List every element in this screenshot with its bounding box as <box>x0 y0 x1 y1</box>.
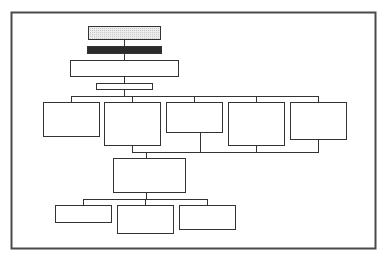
org-chart-diagram <box>0 0 389 262</box>
node-top <box>89 27 161 40</box>
node-i <box>180 206 236 230</box>
node-e <box>291 103 347 140</box>
node-sub <box>97 84 153 90</box>
node-h <box>118 206 174 234</box>
node-c <box>167 103 223 133</box>
node-banner <box>88 47 162 54</box>
node-g <box>56 206 112 223</box>
node-a <box>44 103 100 137</box>
node-main <box>71 61 179 77</box>
node-f <box>114 159 186 193</box>
node-d <box>229 103 285 146</box>
node-b <box>105 103 161 146</box>
